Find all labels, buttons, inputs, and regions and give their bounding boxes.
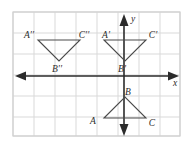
vertex-label-b-prime: B' <box>118 64 127 74</box>
vertex-label-c: C <box>149 118 156 128</box>
x-axis-label: x <box>172 78 178 88</box>
coordinate-plane-figure: A B C A' B' C' A′′ B′′ C′′ x y <box>0 0 193 146</box>
vertex-label-c-prime: C' <box>149 30 158 40</box>
figure-container: A B C A' B' C' A′′ B′′ C′′ x y <box>0 0 193 146</box>
vertex-label-b: B <box>125 87 131 97</box>
vertex-label-a-prime: A' <box>101 30 111 40</box>
vertex-label-c-double-prime: C′′ <box>79 30 90 40</box>
vertex-label-a: A <box>89 116 96 126</box>
vertex-label-b-double-prime: B′′ <box>52 64 63 74</box>
y-axis-label: y <box>130 14 136 24</box>
vertex-label-a-double-prime: A′′ <box>23 30 35 40</box>
